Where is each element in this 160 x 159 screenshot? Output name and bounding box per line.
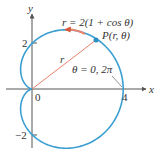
point-label: P(r, θ)	[101, 29, 130, 42]
point-p	[94, 38, 99, 43]
angle-leader-line	[112, 76, 122, 87]
direction-arrow	[70, 30, 85, 35]
x-tick-label: 4	[122, 91, 128, 103]
radius-label: r	[60, 53, 65, 65]
origin-label: 0	[35, 91, 41, 103]
y-tick-bottom-label: −2	[15, 129, 27, 141]
y-tick-top-label: 2	[22, 37, 28, 49]
equation-label: r = 2(1 + cos θ)	[62, 16, 134, 29]
y-axis-label: y	[27, 2, 33, 14]
angle-label: θ = 0, 2π	[72, 63, 113, 75]
x-axis-label: x	[148, 83, 154, 95]
cardioid-diagram: y x 2 −2 0 4 r = 2(1 + cos θ) P(r, θ) r …	[0, 0, 160, 159]
